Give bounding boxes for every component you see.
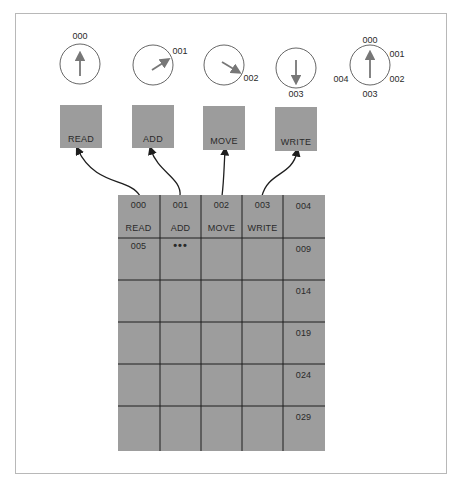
op-label: WRITE xyxy=(275,137,317,147)
cell-address: 029 xyxy=(283,412,324,422)
arrow-read xyxy=(78,150,140,196)
pointer-icon xyxy=(152,61,166,70)
arrow-move xyxy=(222,151,225,196)
op-box-read: READ xyxy=(60,105,102,148)
cell-address: 004 xyxy=(283,201,324,211)
dial-legend-label: 002 xyxy=(389,74,404,84)
cell-content: ADD xyxy=(160,223,201,233)
dial-001 xyxy=(133,45,173,85)
cell-address: 014 xyxy=(283,286,324,296)
op-label: MOVE xyxy=(203,136,245,146)
dial-legend xyxy=(350,45,390,85)
cell-address: 005 xyxy=(118,241,159,251)
cell-address: 024 xyxy=(283,370,324,380)
op-box-write: WRITE xyxy=(275,107,317,151)
ellipsis-icon: ••• xyxy=(160,239,201,251)
pointer-icon xyxy=(222,62,237,71)
cell-content: READ xyxy=(118,223,159,233)
dial-legend-label: 004 xyxy=(333,74,348,84)
dial-legend-label: 003 xyxy=(362,89,377,99)
op-box-add: ADD xyxy=(132,105,174,148)
memory-grid: 000 001 002 003 004 READ ADD MOVE WRITE … xyxy=(118,195,325,451)
cell-content: MOVE xyxy=(201,223,242,233)
op-box-move: MOVE xyxy=(203,106,245,150)
dial-label: 000 xyxy=(72,31,87,41)
cell-address: 009 xyxy=(283,244,324,254)
dial-label: 001 xyxy=(172,46,187,56)
cell-address: 002 xyxy=(201,200,242,210)
dial-label: 003 xyxy=(288,89,303,99)
cell-address: 019 xyxy=(283,328,324,338)
dial-legend-label: 000 xyxy=(362,35,377,45)
dial-002 xyxy=(204,45,244,85)
dial-003 xyxy=(276,48,316,88)
arrow-write xyxy=(262,152,297,196)
cell-address: 000 xyxy=(118,200,159,210)
op-label: READ xyxy=(60,134,102,144)
cell-address: 001 xyxy=(160,200,201,210)
op-label: ADD xyxy=(132,134,174,144)
dial-000 xyxy=(60,44,100,84)
dial-label: 002 xyxy=(243,73,258,83)
cell-address: 003 xyxy=(242,200,283,210)
arrow-add xyxy=(151,150,180,196)
dial-legend-label: 001 xyxy=(389,49,404,59)
cell-content: WRITE xyxy=(242,223,283,233)
